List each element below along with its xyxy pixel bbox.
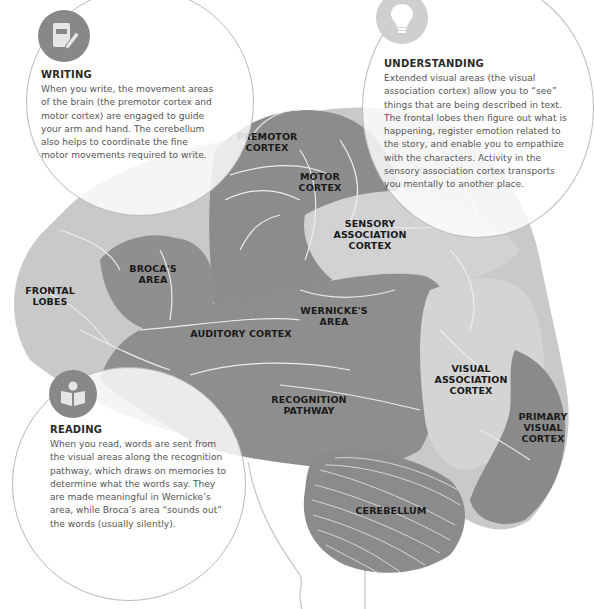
text-line: of the brain (the premotor cortex and	[41, 96, 213, 109]
text-line: area, while Broca’s area “sounds out”	[50, 504, 226, 517]
text-line: When you write, the movement areas	[41, 83, 213, 96]
text-line: with the characters. Activity in the	[384, 152, 567, 165]
label-visual-association-cortex: VISUAL ASSOCIATION CORTEX	[435, 363, 508, 396]
label-line: AREA	[129, 274, 176, 285]
label-line: WERNICKE'S	[300, 305, 367, 316]
text-line: motor movements required to write.	[41, 149, 213, 162]
label-recognition-pathway: RECOGNITION PATHWAY	[271, 394, 346, 416]
reading-body: When you read, words are sent from the v…	[50, 438, 226, 531]
text-line: The frontal lobes then figure out what i…	[384, 112, 567, 125]
reading-title: READING	[50, 424, 102, 435]
understanding-body: Extended visual areas (the visual associ…	[384, 72, 567, 192]
label-line: CEREBELLUM	[356, 505, 427, 516]
notebook-pencil-icon	[38, 10, 90, 62]
label-line: CORTEX	[334, 240, 407, 251]
label-line: LOBES	[25, 296, 75, 307]
text-line: you mentally to another place.	[384, 178, 567, 191]
text-line: the story, and enable you to empathize	[384, 138, 567, 151]
label-line: SENSORY	[334, 218, 407, 229]
text-line: determine what the words say. They	[50, 478, 226, 491]
label-line: AREA	[300, 316, 367, 327]
text-line: pathway, which draws on memories to	[50, 465, 226, 478]
label-line: MOTOR	[299, 171, 342, 182]
text-line: sensory association cortex transports	[384, 165, 567, 178]
text-line: the visual areas along the recognition	[50, 451, 226, 464]
label-line: CORTEX	[519, 433, 568, 444]
text-line: motor cortex) are engaged to guide	[41, 110, 213, 123]
label-line: PATHWAY	[271, 405, 346, 416]
label-line: CORTEX	[299, 182, 342, 193]
label-auditory-cortex: AUDITORY CORTEX	[190, 328, 291, 339]
label-line: PRIMARY	[519, 411, 568, 422]
label-primary-visual-cortex: PRIMARY VISUAL CORTEX	[519, 411, 568, 444]
label-line: BROCA'S	[129, 263, 176, 274]
text-line: also helps to coordinate the fine	[41, 136, 213, 149]
label-wernickes-area: WERNICKE'S AREA	[300, 305, 367, 327]
label-cerebellum: CEREBELLUM	[356, 505, 427, 516]
label-frontal-lobes: FRONTAL LOBES	[25, 285, 75, 307]
text-line: are made meaningful in Wernicke’s	[50, 491, 226, 504]
text-line: association cortex) allow you to “see”	[384, 85, 567, 98]
writing-title: WRITING	[41, 69, 92, 80]
text-line: things that are being described in text.	[384, 99, 567, 112]
text-line: happening, register emotion related to	[384, 125, 567, 138]
label-sensory-association-cortex: SENSORY ASSOCIATION CORTEX	[334, 218, 407, 251]
label-line: ASSOCIATION	[435, 374, 508, 385]
label-line: ASSOCIATION	[334, 229, 407, 240]
label-line: VISUAL	[435, 363, 508, 374]
writing-body: When you write, the movement areas of th…	[41, 83, 213, 163]
person-reading-book-icon	[49, 370, 97, 418]
text-line: the words (usually silently).	[50, 518, 226, 531]
label-brocas-area: BROCA'S AREA	[129, 263, 176, 285]
text-line: When you read, words are sent from	[50, 438, 226, 451]
text-line: your arm and hand. The cerebellum	[41, 123, 213, 136]
label-line: AUDITORY CORTEX	[190, 328, 291, 339]
understanding-title: UNDERSTANDING	[384, 58, 484, 69]
label-line: RECOGNITION	[271, 394, 346, 405]
label-line: CORTEX	[435, 385, 508, 396]
brainstem-outline	[248, 462, 302, 609]
label-line: FRONTAL	[25, 285, 75, 296]
label-line: VISUAL	[519, 422, 568, 433]
text-line: Extended visual areas (the visual	[384, 72, 567, 85]
label-motor-cortex: MOTOR CORTEX	[299, 171, 342, 193]
